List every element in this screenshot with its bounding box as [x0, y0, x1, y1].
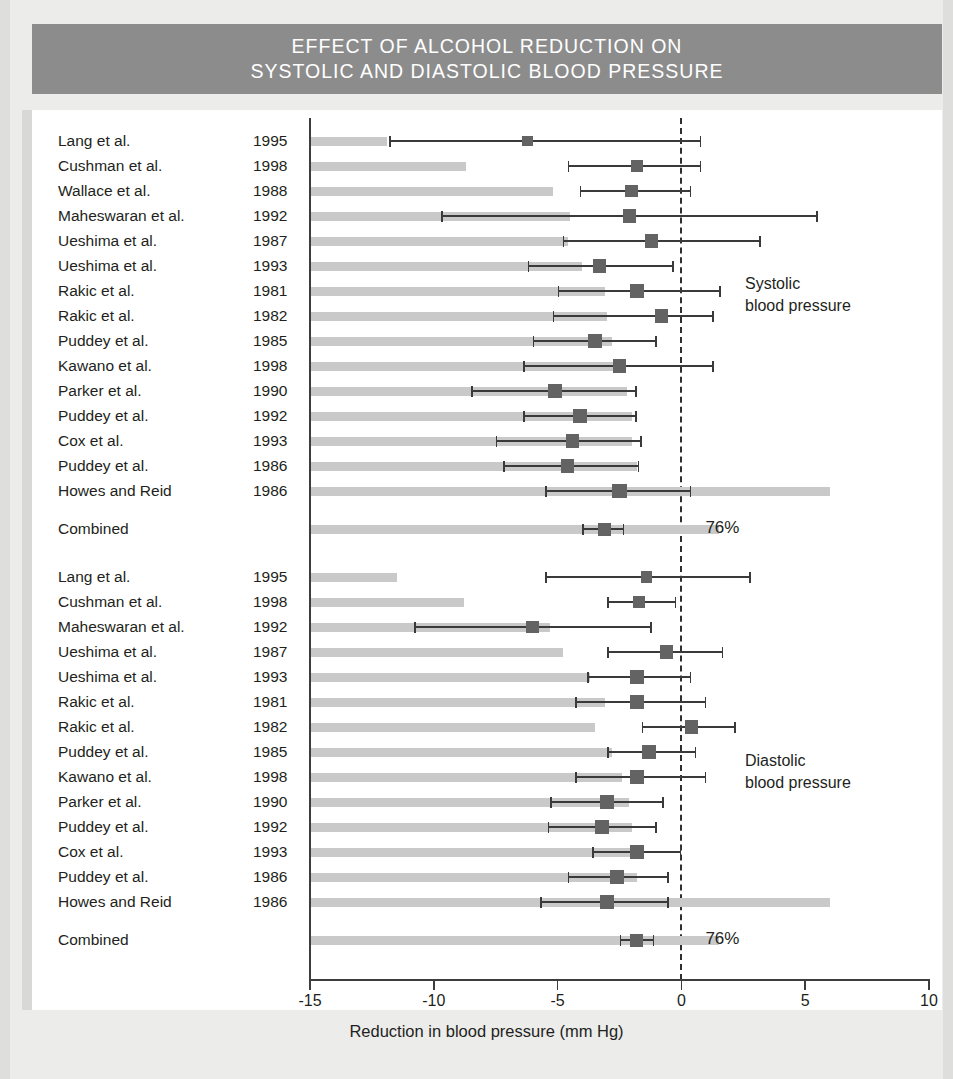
study-label: Puddey et al. [58, 742, 148, 762]
study-year: 1992 [253, 406, 287, 426]
confidence-interval-cap-high [672, 261, 674, 272]
study-label: Puddey et al. [58, 867, 148, 887]
weight-bar [310, 848, 632, 857]
x-tick [681, 981, 683, 990]
confidence-interval-cap-high [667, 897, 669, 908]
effect-marker [548, 384, 562, 398]
confidence-interval-cap-low [540, 897, 542, 908]
effect-marker [623, 209, 636, 222]
study-label: Howes and Reid [58, 892, 172, 912]
systolic-annotation-line-2: blood pressure [745, 295, 851, 317]
effect-marker [600, 795, 614, 809]
confidence-interval-cap-low [587, 672, 589, 683]
confidence-interval-cap-high [690, 186, 692, 197]
study-year: 1981 [253, 281, 287, 301]
study-label: Parker et al. [58, 792, 142, 812]
study-year: 1993 [253, 842, 287, 862]
confidence-interval-cap-high [695, 747, 697, 758]
confidence-interval-cap-high [700, 136, 702, 147]
study-label: Ueshima et al. [58, 642, 157, 662]
effect-marker [630, 770, 644, 784]
confidence-interval-cap-high [734, 722, 736, 733]
study-label: Cox et al. [58, 842, 123, 862]
study-label: Ueshima et al. [58, 256, 157, 276]
study-year: 1998 [253, 592, 287, 612]
study-year: 1982 [253, 306, 287, 326]
study-year: 1995 [253, 567, 287, 587]
confidence-interval-cap-low [580, 186, 582, 197]
confidence-interval-cap-high [655, 822, 657, 833]
study-year: 1987 [253, 642, 287, 662]
study-label: Ueshima et al. [58, 667, 157, 687]
effect-marker [613, 359, 627, 373]
study-label: Puddey et al. [58, 331, 148, 351]
figure-title-line-1: EFFECT OF ALCOHOL REDUCTION ON [292, 34, 683, 59]
study-year: 1986 [253, 892, 287, 912]
study-label: Cushman et al. [58, 592, 162, 612]
confidence-interval-cap-low [563, 236, 565, 247]
x-tick [557, 981, 559, 990]
effect-marker [645, 234, 658, 247]
study-label: Howes and Reid [58, 481, 172, 501]
confidence-interval-cap-high [690, 672, 692, 683]
x-tick-label: 10 [920, 992, 938, 1010]
effect-marker [655, 309, 669, 323]
effect-marker [566, 434, 580, 448]
confidence-interval-cap-low [523, 411, 525, 422]
study-label: Kawano et al. [58, 356, 152, 376]
effect-marker [641, 571, 652, 582]
confidence-interval-cap-high [623, 524, 625, 535]
confidence-interval-line [553, 315, 714, 317]
confidence-interval-cap-high [655, 336, 657, 347]
confidence-interval-cap-low [414, 622, 416, 633]
x-tick [433, 981, 435, 990]
confidence-interval-cap-high [680, 847, 682, 858]
confidence-interval-cap-high [635, 386, 637, 397]
effect-marker [588, 334, 602, 348]
study-year: 1990 [253, 381, 287, 401]
diastolic-annotation: Diastolicblood pressure [745, 750, 851, 794]
weight-bar [310, 187, 553, 196]
weight-bar [310, 673, 590, 682]
confidence-interval-cap-high [675, 597, 677, 608]
confidence-interval-cap-low [553, 311, 555, 322]
confidence-interval-cap-low [523, 361, 525, 372]
effect-marker [573, 409, 587, 423]
confidence-interval-cap-low [568, 161, 570, 172]
confidence-interval-cap-high [640, 436, 642, 447]
study-label: Rakic et al. [58, 306, 135, 326]
x-tick-label: 5 [801, 992, 810, 1010]
confidence-interval-cap-low [558, 286, 560, 297]
weight-bar [310, 573, 397, 582]
x-tick [309, 981, 311, 990]
x-tick [804, 981, 806, 990]
study-year: 1986 [253, 481, 287, 501]
effect-marker [660, 645, 673, 658]
heterogeneity-percent: 76% [705, 518, 739, 538]
study-label: Kawano et al. [58, 767, 152, 787]
effect-marker [633, 596, 645, 608]
diastolic-annotation-line-1: Diastolic [745, 750, 851, 772]
effect-marker [630, 695, 644, 709]
study-year: 1992 [253, 206, 287, 226]
weight-bar [310, 748, 612, 757]
confidence-interval-cap-low [575, 772, 577, 783]
study-label: Wallace et al. [58, 181, 150, 201]
study-label: Combined [58, 930, 129, 950]
study-year: 1990 [253, 792, 287, 812]
study-year: 1986 [253, 456, 287, 476]
effect-marker [595, 820, 609, 834]
x-tick-label: 0 [677, 992, 686, 1010]
study-label: Lang et al. [58, 131, 130, 151]
x-tick-label: -5 [550, 992, 564, 1010]
confidence-interval-cap-low [575, 697, 577, 708]
confidence-interval-cap-high [759, 236, 761, 247]
study-label: Maheswaran et al. [58, 206, 185, 226]
effect-marker [631, 160, 643, 172]
weight-bar [310, 936, 719, 945]
diastolic-annotation-line-2: blood pressure [745, 772, 851, 794]
confidence-interval-cap-high [749, 572, 751, 583]
confidence-interval-cap-low [441, 211, 443, 222]
confidence-interval-line [563, 240, 761, 242]
confidence-interval-cap-low [642, 722, 644, 733]
